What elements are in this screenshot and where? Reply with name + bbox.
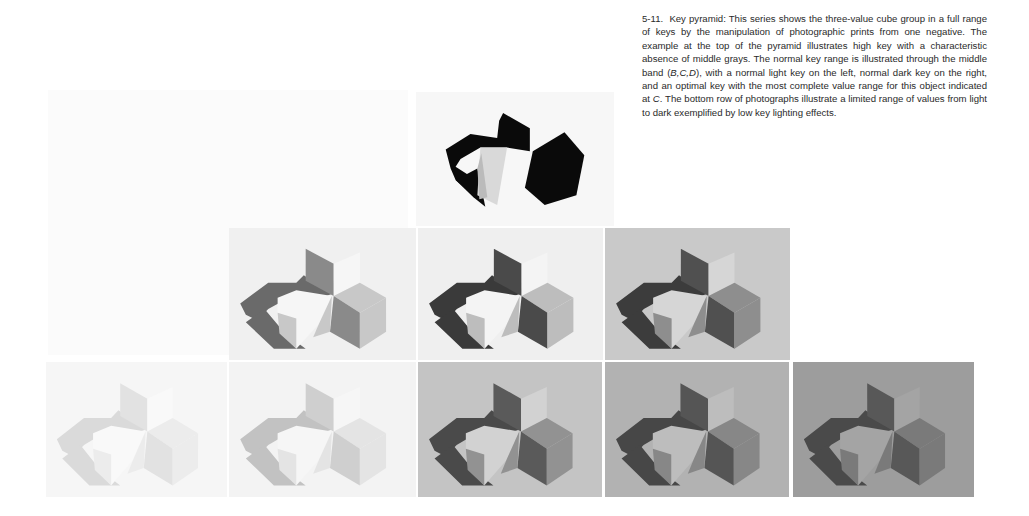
caption-text-3: . The bottom row of photographs illustra…	[642, 93, 987, 117]
figure-number: 5-11.	[642, 13, 663, 24]
photo-top-row-1	[416, 92, 614, 226]
photo-middle-row-2	[418, 228, 603, 360]
photo-bottom-row-5	[793, 362, 974, 497]
optimal-label: C	[653, 93, 660, 104]
photo-bottom-row-1	[46, 362, 227, 497]
photo-bottom-row-2	[229, 362, 416, 497]
photo-middle-row-1	[229, 228, 416, 360]
photo-bottom-row-3	[418, 362, 602, 497]
photo-middle-row-3	[605, 228, 790, 360]
figure-title: Key pyramid:	[669, 13, 725, 24]
photo-bottom-row-4	[605, 362, 789, 497]
middle-band-labels: B,C,D	[670, 67, 696, 78]
figure-caption: 5-11. Key pyramid: This series shows the…	[642, 12, 987, 119]
